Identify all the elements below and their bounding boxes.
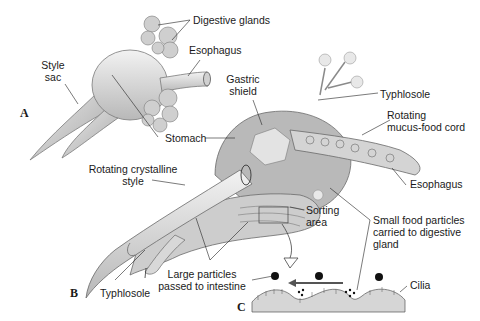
label-typhlosole-top: Typhlosole xyxy=(380,88,430,100)
label-gastric-shield: Gastric shield xyxy=(223,73,263,97)
label-sorting-area: Sorting area xyxy=(306,204,339,228)
label-stomach: Stomach xyxy=(165,132,206,144)
label-esophagus-b: Esophagus xyxy=(410,178,463,190)
label-typhlosole-bottom: Typhlosole xyxy=(100,287,150,299)
label-rotating-mucus-food-cord: Rotating mucus-food cord xyxy=(387,109,465,133)
panel-label-b: B xyxy=(70,286,78,301)
panel-c-cilia-surface xyxy=(252,272,405,312)
label-large-particles: Large particles passed to intestine xyxy=(157,268,247,292)
panel-label-a: A xyxy=(20,106,29,121)
label-small-food-particles: Small food particles carried to digestiv… xyxy=(373,214,465,250)
panel-label-c: C xyxy=(237,300,246,315)
label-esophagus-a: Esophagus xyxy=(189,44,242,56)
label-rotating-crystalline-style: Rotating crystalline style xyxy=(88,163,178,187)
label-digestive-glands: Digestive glands xyxy=(193,14,270,26)
label-cilia: Cilia xyxy=(410,279,430,291)
label-style-sac: Style sac xyxy=(38,59,68,83)
